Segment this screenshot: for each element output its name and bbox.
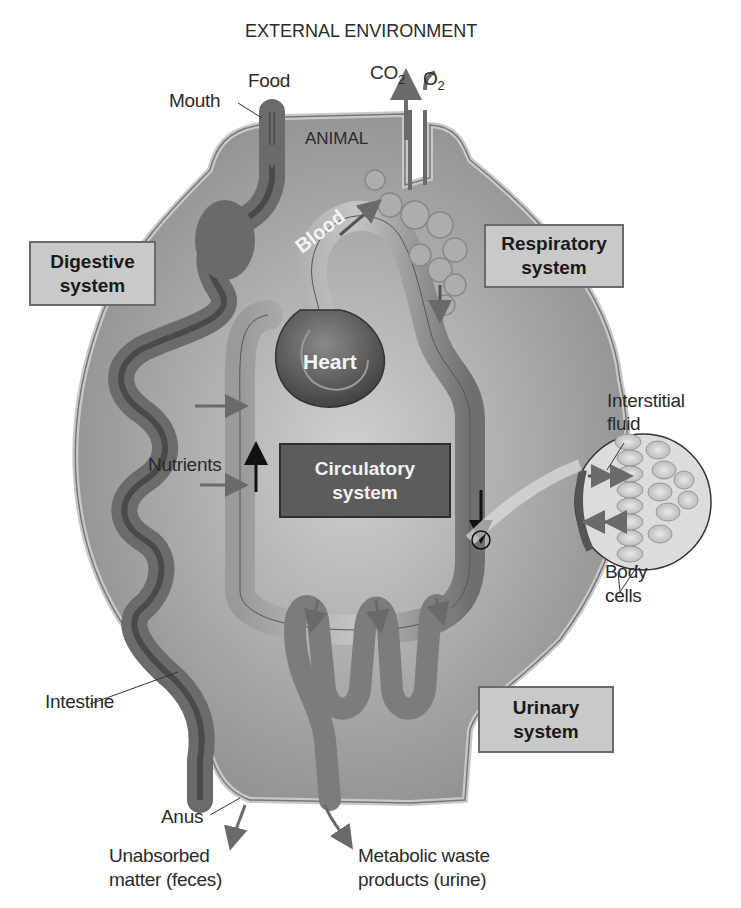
feces-line-2: matter (feces) xyxy=(109,868,222,892)
respiratory-line-1: Respiratory xyxy=(486,232,622,256)
urinary-system-box: Urinary system xyxy=(478,686,614,753)
nutrients-label: Nutrients xyxy=(148,454,221,476)
circulatory-system-box: Circulatory system xyxy=(279,443,451,518)
interstitial-line-2: fluid xyxy=(607,412,685,435)
respiratory-system-box: Respiratory system xyxy=(484,224,624,288)
interstitial-fluid-label: Interstitial fluid xyxy=(607,389,685,435)
respiratory-line-2: system xyxy=(486,256,622,280)
body-cells-label: Body cells xyxy=(605,560,647,608)
urine-arrow xyxy=(325,805,348,842)
intestine-label: Intestine xyxy=(45,691,114,713)
urine-label: Metabolic waste products (urine) xyxy=(358,844,490,892)
stomach-shape xyxy=(195,200,255,280)
o2-text: O xyxy=(423,68,437,89)
co2-label: CO2 xyxy=(370,62,405,91)
co2-text: CO xyxy=(370,62,398,83)
digestive-line-2: system xyxy=(31,274,154,298)
animal-label: ANIMAL xyxy=(305,128,368,150)
interstitial-line-1: Interstitial xyxy=(607,389,685,412)
feces-label: Unabsorbed matter (feces) xyxy=(109,844,222,892)
heart-label: Heart xyxy=(303,350,357,374)
external-environment-title: EXTERNAL ENVIRONMENT xyxy=(245,20,477,42)
urinary-line-1: Urinary xyxy=(480,696,612,720)
o2-subscript: 2 xyxy=(437,78,444,93)
urine-line-2: products (urine) xyxy=(358,868,490,892)
feces-arrow xyxy=(232,805,245,842)
digestive-system-box: Digestive system xyxy=(29,241,156,306)
mouth-label: Mouth xyxy=(169,90,220,112)
o2-label: O2 xyxy=(423,68,444,97)
digestive-line-1: Digestive xyxy=(31,250,154,274)
body-cells-line-1: Body xyxy=(605,560,647,584)
urine-line-1: Metabolic waste xyxy=(358,844,490,868)
circulatory-line-2: system xyxy=(281,481,449,505)
co2-subscript: 2 xyxy=(398,72,405,87)
feces-line-1: Unabsorbed xyxy=(109,844,222,868)
food-label: Food xyxy=(248,70,290,92)
urinary-line-2: system xyxy=(480,720,612,744)
circulatory-line-1: Circulatory xyxy=(281,457,449,481)
body-cells-line-2: cells xyxy=(605,584,647,608)
anus-label: Anus xyxy=(161,806,203,828)
